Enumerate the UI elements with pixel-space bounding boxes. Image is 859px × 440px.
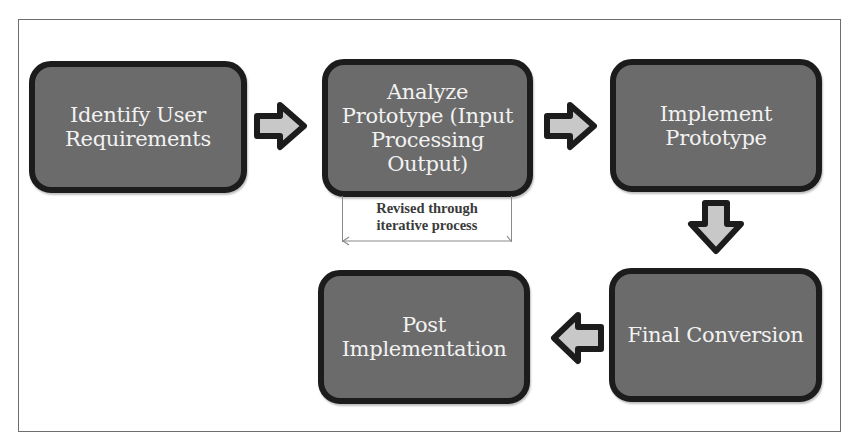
step-label: Analyze Prototype (Input Processing Outp… <box>328 80 527 176</box>
step-post-implementation: Post Implementation <box>318 270 530 404</box>
arrow-right-icon <box>542 100 600 152</box>
step-label: Implement Prototype <box>643 102 789 150</box>
step-label: Post Implementation <box>331 313 517 361</box>
step-identify-user-requirements: Identify User Requirements <box>29 61 247 193</box>
arrow-down-icon <box>685 198 747 256</box>
step-final-conversion: Final Conversion <box>609 268 822 402</box>
step-analyze-prototype: Analyze Prototype (Input Processing Outp… <box>322 59 533 197</box>
iteration-note-text: Revised through iterative process <box>376 196 478 234</box>
note-line-1: Revised through <box>376 200 478 217</box>
step-label: Identify User Requirements <box>45 103 231 151</box>
arrow-right-icon <box>252 100 310 152</box>
iteration-loop-arrow-icon <box>340 232 514 246</box>
step-implement-prototype: Implement Prototype <box>610 59 822 192</box>
arrow-left-icon <box>548 310 606 366</box>
step-label: Final Conversion <box>615 323 816 347</box>
